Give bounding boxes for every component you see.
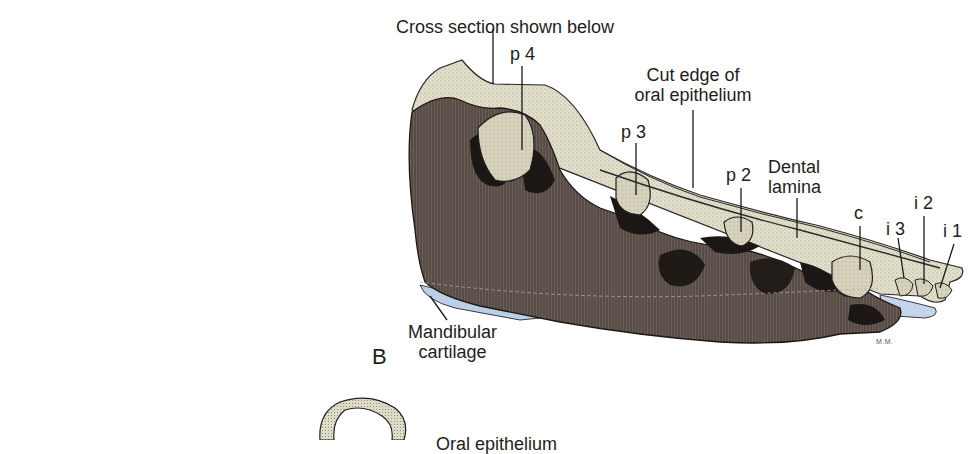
label-p3: p 3	[621, 122, 646, 142]
label-mandibular-cartilage: Mandibular cartilage	[408, 322, 497, 362]
label-cut-edge-line1: Cut edge of	[628, 65, 758, 85]
panel-letter: B	[372, 344, 387, 370]
label-cut-edge: Cut edge of oral epithelium	[628, 65, 758, 105]
label-p4: p 4	[510, 44, 535, 64]
label-mandibular-line1: Mandibular	[408, 322, 497, 342]
label-p2: p 2	[726, 165, 751, 185]
label-i2: i 2	[914, 193, 933, 213]
label-cut-edge-line2: oral epithelium	[628, 85, 758, 105]
label-mandibular-line2: cartilage	[408, 342, 497, 362]
label-dental-lamina-line1: Dental	[768, 157, 821, 177]
label-cross-section: Cross section shown below	[396, 17, 614, 37]
label-i3: i 3	[886, 219, 905, 239]
artist-signature: M.M.	[876, 338, 894, 345]
label-canine: c	[854, 203, 863, 223]
label-dental-lamina: Dental lamina	[768, 157, 821, 197]
label-partial-bottom: Oral epithelium	[436, 434, 557, 454]
label-i1: i 1	[943, 221, 962, 241]
label-dental-lamina-line2: lamina	[768, 177, 821, 197]
